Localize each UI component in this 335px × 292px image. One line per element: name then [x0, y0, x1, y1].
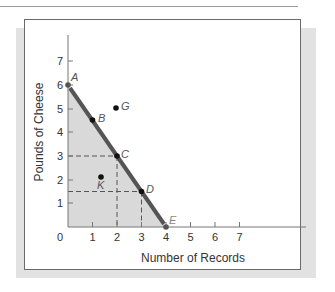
point-g	[113, 105, 119, 111]
x-tick-label: 6	[212, 231, 218, 243]
x-tick-label: 0	[57, 231, 63, 243]
ppf-chart: 1 2 3 4 5 6 7 0 1 2 3 4 5 6 7 Number of …	[0, 0, 335, 292]
y-tick-label: 2	[57, 174, 63, 186]
point-label-b: B	[98, 112, 105, 124]
point-c	[114, 153, 120, 159]
point-label-d: D	[146, 183, 154, 195]
y-tick-label: 1	[57, 197, 63, 209]
y-tick-label: 4	[57, 126, 63, 138]
x-tick-label: 2	[114, 231, 120, 243]
x-tick-label: 1	[89, 231, 95, 243]
point-b	[90, 117, 96, 123]
x-tick-label: 5	[187, 231, 193, 243]
point-label-k: K	[97, 179, 105, 191]
y-tick-label: 3	[57, 150, 63, 162]
y-tick-label: 5	[57, 103, 63, 115]
x-tick-label: 4	[163, 231, 169, 243]
point-e	[163, 224, 169, 230]
x-tick-label: 7	[236, 231, 242, 243]
y-tick-label: 7	[57, 55, 63, 67]
x-axis-title: Number of Records	[141, 251, 245, 265]
x-tick-label: 3	[138, 231, 144, 243]
point-label-g: G	[121, 100, 130, 112]
point-label-a: A	[70, 71, 78, 83]
point-label-c: C	[121, 148, 129, 160]
point-label-e: E	[169, 214, 177, 226]
y-axis-title: Pounds of Cheese	[32, 82, 46, 181]
point-d	[139, 189, 145, 195]
y-tick-label: 6	[57, 79, 63, 91]
point-a	[65, 82, 71, 88]
